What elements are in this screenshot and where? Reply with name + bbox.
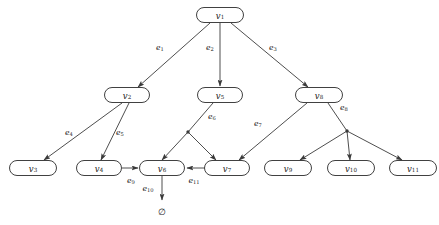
hypergraph-diagram: v1v2v5v8v3v4v6v7v9v10v11 e1e2e3e4e5e6e7e… — [0, 0, 439, 225]
edge-label-e2: e2 — [206, 43, 214, 52]
node-v3[interactable]: v3 — [10, 161, 57, 176]
edge-e8c — [347, 131, 402, 160]
edge-label-e7: e7 — [254, 119, 262, 128]
edge-label-e5: e5 — [116, 128, 124, 137]
junction-dot-j-e6 — [186, 130, 189, 133]
edge-label-e9: e9 — [127, 176, 135, 185]
edge-label-e10: e10 — [142, 184, 153, 193]
edge-e4 — [44, 103, 122, 160]
edge-label-e3: e3 — [269, 43, 277, 52]
edge-label-e4: e4 — [65, 128, 74, 137]
edge-e8b — [347, 131, 350, 160]
node-v7[interactable]: v7 — [205, 161, 250, 176]
edge-e8a — [300, 131, 347, 160]
node-v6[interactable]: v6 — [140, 161, 185, 176]
edge-e5 — [101, 103, 129, 160]
edge-label-e6: e6 — [208, 112, 216, 121]
nodes-layer: v1v2v5v8v3v4v6v7v9v10v11 — [10, 8, 437, 176]
edge-label-e1: e1 — [156, 43, 164, 52]
node-v9[interactable]: v9 — [265, 161, 312, 176]
terminal-layer: ∅ — [158, 207, 166, 217]
node-v1[interactable]: v1 — [197, 8, 244, 23]
diagram-canvas: v1v2v5v8v3v4v6v7v9v10v11 e1e2e3e4e5e6e7e… — [0, 0, 439, 225]
node-v2[interactable]: v2 — [105, 88, 150, 103]
node-v5[interactable]: v5 — [198, 88, 243, 103]
junction-dot-j-e8 — [345, 129, 348, 132]
empty-set-symbol: ∅ — [158, 207, 166, 217]
edge-label-e11: e11 — [188, 176, 199, 185]
edge-e7 — [239, 103, 307, 160]
edge-e6a — [162, 132, 188, 160]
edge-label-e8: e8 — [340, 103, 348, 112]
node-v4[interactable]: v4 — [77, 161, 122, 176]
edge-e6b — [188, 132, 216, 160]
edge-e1 — [138, 23, 210, 87]
node-v8[interactable]: v8 — [296, 88, 343, 103]
node-v11[interactable]: v11 — [390, 161, 437, 176]
edge-e3 — [231, 23, 308, 87]
node-v10[interactable]: v10 — [328, 161, 375, 176]
